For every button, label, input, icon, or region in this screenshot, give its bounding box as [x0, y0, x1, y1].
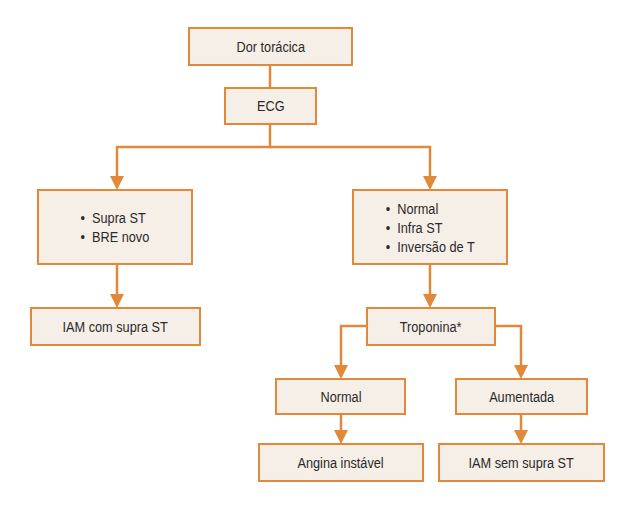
- node-label: IAM com supra ST: [63, 318, 168, 336]
- criteria-item: Normal: [386, 199, 475, 218]
- criteria-list: Normal Infra ST Inversão de T: [386, 199, 475, 256]
- criteria-item: Supra ST: [81, 208, 150, 227]
- arrowhead-icon: [110, 176, 124, 190]
- node-ecg: ECG: [224, 87, 317, 125]
- edge-ecg-to-st-elevation: [117, 124, 270, 176]
- node-label: ECG: [257, 97, 285, 115]
- arrowhead-icon: [514, 365, 528, 379]
- node-label: IAM sem supra ST: [469, 454, 574, 472]
- node-st-elevation-group: Supra ST BRE novo: [37, 189, 193, 265]
- edge-troponin-to-normal: [341, 326, 366, 365]
- node-label: Dor torácica: [236, 38, 305, 56]
- node-troponin: Troponina*: [366, 307, 496, 346]
- node-label: Aumentada: [489, 388, 554, 406]
- node-nstemi: IAM sem supra ST: [438, 443, 605, 482]
- arrowhead-icon: [334, 430, 348, 444]
- node-chest-pain: Dor torácica: [188, 27, 353, 66]
- arrowhead-icon: [334, 365, 348, 379]
- edge-ecg-to-non-st: [270, 147, 430, 176]
- flowchart-canvas: Dor torácica ECG Supra ST BRE novo Norma…: [0, 0, 630, 506]
- node-stemi: IAM com supra ST: [30, 307, 201, 346]
- node-troponin-normal: Normal: [275, 378, 406, 415]
- node-label: Troponina*: [400, 318, 462, 336]
- arrowhead-icon: [110, 294, 124, 308]
- node-troponin-elevated: Aumentada: [455, 378, 588, 415]
- node-label: Normal: [320, 388, 361, 406]
- node-non-st-group: Normal Infra ST Inversão de T: [352, 189, 508, 265]
- criteria-item: BRE novo: [81, 227, 150, 246]
- edge-troponin-to-elevated: [495, 326, 521, 365]
- criteria-item: Infra ST: [386, 218, 475, 237]
- node-label: Angina instável: [298, 454, 384, 472]
- arrowhead-icon: [423, 294, 437, 308]
- node-unstable-angina: Angina instável: [258, 443, 424, 482]
- criteria-list: Supra ST BRE novo: [81, 208, 150, 246]
- criteria-item: Inversão de T: [386, 237, 475, 256]
- arrowhead-icon: [514, 430, 528, 444]
- arrowhead-icon: [423, 176, 437, 190]
